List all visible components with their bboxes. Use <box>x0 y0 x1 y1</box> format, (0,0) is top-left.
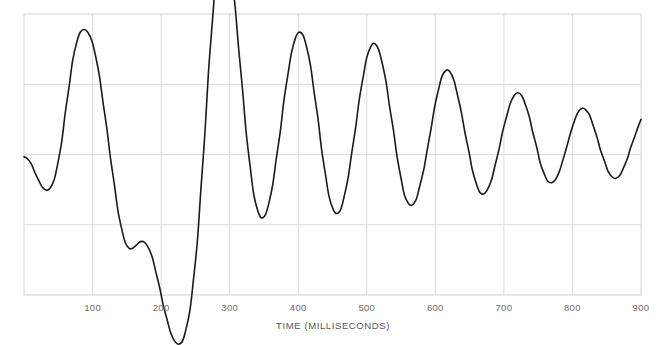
x-tick-label-700: 700 <box>496 302 513 313</box>
x-tick-label-600: 600 <box>427 302 444 313</box>
x-tick-label-400: 400 <box>290 302 307 313</box>
x-tick-label-500: 500 <box>358 302 375 313</box>
x-tick-label-300: 300 <box>221 302 238 313</box>
plot-area <box>0 0 666 345</box>
grid-lines <box>24 14 641 295</box>
x-tick-label-800: 800 <box>564 302 581 313</box>
waveform-line <box>24 0 641 344</box>
x-tick-label-900: 900 <box>633 302 650 313</box>
x-tick-label-100: 100 <box>84 302 101 313</box>
waveform-chart: 100200300400500600700800900 TIME (MILLIS… <box>0 0 666 345</box>
x-axis-title: TIME (MILLISECONDS) <box>276 320 390 331</box>
x-tick-label-200: 200 <box>153 302 170 313</box>
